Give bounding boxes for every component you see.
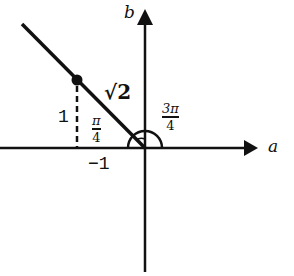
horizontal-axis-arrowhead bbox=[244, 140, 258, 156]
hypotenuse-label: √2 bbox=[104, 82, 131, 102]
diagram-canvas bbox=[0, 0, 294, 276]
horizontal-axis-label: a bbox=[268, 138, 278, 155]
inner-angle-label: π 4 bbox=[92, 114, 101, 144]
point-marker bbox=[72, 75, 83, 86]
vertical-axis-arrowhead bbox=[137, 9, 153, 25]
outer-angle-denominator: 4 bbox=[166, 119, 174, 132]
outer-angle-label: 3π 4 bbox=[162, 102, 179, 132]
vertical-axis-label: b bbox=[124, 4, 135, 21]
outer-angle-numerator: 3π bbox=[162, 102, 179, 115]
vertical-leg-label: 1 bbox=[58, 108, 69, 126]
inner-angle-tick bbox=[136, 138, 145, 140]
complex-plane-diagram: b a √2 1 −1 π 4 3π 4 bbox=[0, 0, 294, 276]
horizontal-tick-label: −1 bbox=[88, 155, 110, 173]
inner-angle-denominator: 4 bbox=[92, 131, 100, 144]
inner-angle-numerator: π bbox=[92, 114, 101, 127]
